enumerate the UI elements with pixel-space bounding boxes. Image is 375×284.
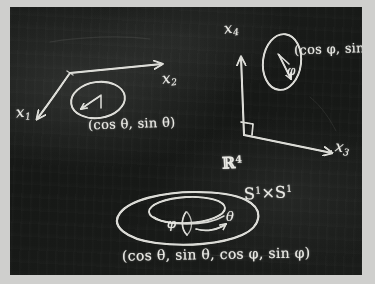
r-exponent: 4 [235, 153, 242, 164]
label-torus-parametrization: (cos θ, sin θ, cos φ, sin φ) [122, 245, 311, 262]
axis-label-x4: x4 [223, 20, 240, 38]
chalkboard-surface: x1 x2 (cos θ, sin θ) x4 x3 (cos φ, sin φ… [10, 7, 362, 275]
axis-x3-line [244, 135, 332, 153]
axis-x4-subscript: 4 [232, 26, 239, 38]
axis-x1-line [37, 73, 70, 119]
r-symbol: ℝ [221, 153, 236, 173]
axis-label-x3: x3 [334, 139, 351, 157]
axis-x2-line [70, 64, 162, 73]
angle-label-theta-torus: θ [226, 210, 234, 223]
torus-theta-arrow [196, 224, 226, 230]
axis-x2-subscript: 2 [171, 76, 178, 88]
label-cos-phi-sin-phi: (cos φ, sin φ) [294, 40, 362, 56]
torus-outer-outline [117, 192, 258, 245]
axis-label-x1: x1 [15, 105, 31, 122]
s1-second-exponent: 1 [286, 183, 293, 194]
cartesian-product-symbol: × [261, 183, 276, 203]
label-ambient-space-r4: ℝ4 [222, 154, 243, 171]
axis-x4-line [241, 57, 244, 135]
angle-label-phi-torus: φ [167, 217, 176, 230]
axis-x3-subscript: 3 [343, 146, 350, 158]
radius-theta-arrow [81, 96, 100, 109]
label-product-space-s1xs1: S1×S1 [244, 184, 293, 203]
circle-theta [69, 78, 127, 121]
axis-x1-subscript: 1 [25, 110, 32, 121]
label-cos-theta-sin-theta: (cos θ, sin θ) [88, 115, 176, 131]
angle-label-phi-circle: φ [287, 65, 296, 77]
chalkboard-photo-frame: x1 x2 (cos θ, sin θ) x4 x3 (cos φ, sin φ… [0, 0, 375, 284]
axis-label-x2: x2 [161, 70, 177, 88]
